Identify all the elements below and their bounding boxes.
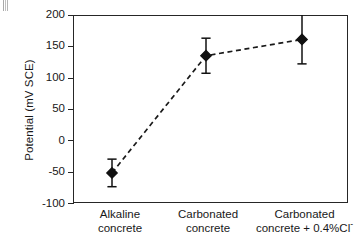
data-point-marker bbox=[297, 34, 307, 44]
data-point-marker bbox=[107, 168, 117, 178]
data-point-marker bbox=[201, 51, 211, 61]
y-tick-label-neg100: -100 bbox=[5, 198, 65, 209]
y-tick-label-0: 0 bbox=[5, 135, 65, 146]
chloride-superscript-minus: - bbox=[350, 219, 353, 229]
x-category-alkaline-line1: Alkaline bbox=[100, 208, 140, 220]
x-category-chloride-line1: Carbonated bbox=[274, 208, 334, 220]
data-point-group bbox=[107, 159, 117, 187]
data-point-group bbox=[201, 38, 211, 73]
data-layer bbox=[73, 15, 348, 203]
x-category-chloride-line2-text: concrete + 0.4%Cl bbox=[256, 222, 350, 234]
data-point-group bbox=[297, 15, 307, 64]
y-tick-label-150: 150 bbox=[5, 40, 65, 51]
y-tick-mark-neg100 bbox=[68, 203, 74, 204]
x-category-carbonated-line1: Carbonated bbox=[178, 208, 238, 220]
y-tick-label-neg50: -50 bbox=[5, 166, 65, 177]
y-tick-label-200: 200 bbox=[5, 9, 65, 20]
x-category-carbonated-chloride: Carbonated concrete + 0.4%Cl- bbox=[242, 208, 364, 235]
y-tick-label-50: 50 bbox=[5, 103, 65, 114]
x-axis-categories: Alkaline concrete Carbonated concrete Ca… bbox=[60, 208, 364, 248]
y-tick-label-100: 100 bbox=[5, 72, 65, 83]
series-svg bbox=[73, 15, 348, 203]
x-category-chloride-line2: concrete + 0.4%Cl- bbox=[242, 222, 364, 236]
chart-figure: Potential (mV SCE) 200 150 100 50 0 -50 … bbox=[0, 0, 364, 252]
